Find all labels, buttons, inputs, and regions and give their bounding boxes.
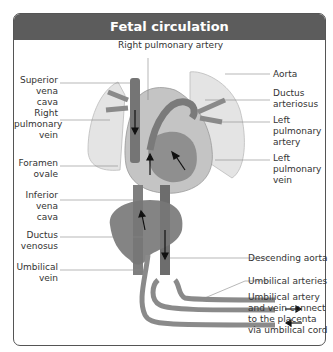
label-descending-aorta: Descending aorta (248, 253, 328, 264)
label-ductus-venosus: Ductusvenosus (14, 230, 58, 252)
label-umbilical-vein: Umbilicalvein (14, 262, 58, 284)
label-foramen-ovale: Foramenovale (14, 158, 58, 180)
label-left-pulmonary-artery: Leftpulmonaryartery (273, 115, 321, 148)
label-umbilical-arteries: Umbilical arteries (248, 276, 327, 287)
label-left-pulmonary-vein: Leftpulmonaryvein (273, 153, 321, 186)
label-right-pulmonary-artery: Right pulmonary artery (118, 40, 223, 51)
label-inferior-vena-cava: Inferiorvena cava (14, 190, 58, 223)
label-aorta: Aorta (273, 69, 297, 80)
label-ductus-arteriosus: Ductusarteriosus (273, 88, 318, 110)
label-superior-vena-cava: Superiorvena cava (14, 75, 58, 108)
label-right-pulmonary-vein: Rightpulmonaryvein (14, 108, 58, 141)
label-placenta-note: Umbilical arteryand vein connectto the p… (248, 292, 327, 336)
